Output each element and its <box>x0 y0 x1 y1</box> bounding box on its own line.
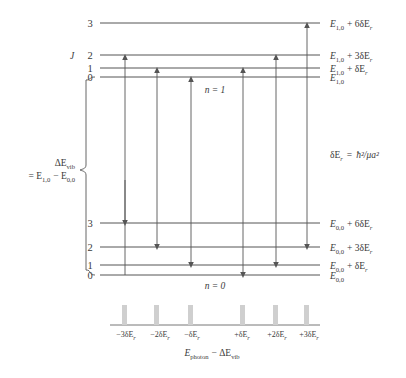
spectrum-tick-label-4: +δEr <box>234 330 250 341</box>
spectrum-bar-6 <box>304 305 309 325</box>
lower-energy-label-j0: E0,0 <box>329 271 345 283</box>
lower-energy-label-j3: E0,0+ 6δEr <box>329 219 373 231</box>
lower-energy-label-j2: E0,0+ 3δEr <box>329 243 373 255</box>
spectrum-tick-1-sub: r <box>133 334 136 341</box>
spectrum-bar-4 <box>240 305 245 325</box>
upper-energy-extra-sub-j1: r <box>365 69 368 76</box>
lower-energy-extra-sub-j2: r <box>370 248 373 255</box>
spectrum-tick-2-sub: r <box>167 334 170 341</box>
lower-energy-extra-sub-j1: r <box>365 266 368 273</box>
upper-energy-extra-j3: + 6δE <box>347 19 370 29</box>
spectrum-bar-1 <box>122 305 127 325</box>
spectrum-group: −3δEr −2δEr −δEr +δEr +2δEr +3δEr Ephoto… <box>110 305 320 360</box>
upper-energy-extra-sub-j3: r <box>370 24 373 31</box>
vib-delta-symbol: ΔE <box>55 158 67 168</box>
transition-arrow-t4 <box>240 67 246 278</box>
vibrational-energy-label-line2: = E1,0− E0,0 <box>28 171 75 183</box>
energy-level-diagram-figure: 3 2 1 0 J n = 1 E1,0+ 6δEr E1,0+ 3δEr E1… <box>0 0 406 378</box>
diagram-canvas: 3 2 1 0 J n = 1 E1,0+ 6δEr E1,0+ 3δEr E1… <box>0 0 406 378</box>
upper-state-label-text: n = 1 <box>205 85 226 95</box>
vibrational-energy-label-line1: ΔEvib <box>55 158 76 170</box>
spectrum-caption-minus: − ΔE <box>212 348 232 358</box>
lower-energy-sub-j0: 0,0 <box>336 276 345 283</box>
rotational-constant-group: δEr=ħ²/μa² <box>330 150 379 162</box>
upper-level-number-j3: 3 <box>87 18 92 29</box>
upper-energy-sub-j1: 1,0 <box>336 69 345 76</box>
vibrational-energy-brace-group: ΔEvib = E1,0− E0,0 <box>28 77 95 275</box>
spectrum-tick-label-3: −δEr <box>184 330 200 341</box>
vib-eq-prefix: = E <box>28 171 42 181</box>
spectrum-tick-2-prefix: −2δE <box>150 330 167 339</box>
lower-energy-sub-j2: 0,0 <box>336 248 345 255</box>
lower-energy-extra-j3: + 6δE <box>347 219 370 229</box>
upper-manifold-group: 3 2 1 0 J n = 1 E1,0+ 6δEr E1,0+ 3δEr E1… <box>70 18 373 95</box>
upper-energy-sub-j3: 1,0 <box>336 24 345 31</box>
upper-energy-extra-sub-j2: r <box>370 56 373 63</box>
lower-level-number-j2: 2 <box>87 242 92 253</box>
spectrum-tick-4-sub: r <box>247 334 250 341</box>
lower-energy-sub-j1: 0,0 <box>336 266 345 273</box>
transition-arrows-group <box>122 22 310 278</box>
lower-state-label-text: n = 0 <box>205 281 226 291</box>
spectrum-tick-3-sub: r <box>197 334 200 341</box>
rot-const-lhs-sub: r <box>340 155 343 162</box>
upper-energy-label-j2: E1,0+ 3δEr <box>329 51 373 63</box>
lower-energy-sub-j3: 0,0 <box>336 224 345 231</box>
spectrum-bar-2 <box>154 305 159 325</box>
transition-arrow-t6 <box>304 22 310 250</box>
rot-const-equals: = <box>347 150 352 160</box>
spectrum-tick-4-prefix: +δE <box>234 330 247 339</box>
vib-eq-minus: − E <box>53 171 67 181</box>
lower-manifold-group: 3 2 1 0 n = 0 E0,0+ 6δEr E0,0+ 3δEr E0,0… <box>87 218 372 291</box>
spectrum-bar-5 <box>273 305 278 325</box>
spectrum-tick-1-prefix: −3δE <box>116 330 133 339</box>
spectrum-caption-sub2: vib <box>231 353 240 360</box>
spectrum-tick-5-sub: r <box>284 334 287 341</box>
vib-delta-sub: vib <box>67 163 76 170</box>
lower-state-label: n = 0 <box>205 281 226 291</box>
vib-eq-sub1: 1,0 <box>42 176 51 183</box>
spectrum-bar-3 <box>188 305 193 325</box>
upper-level-number-j2: 2 <box>87 50 92 61</box>
spectrum-tick-label-1: −3δEr <box>116 330 136 341</box>
lower-energy-extra-j2: + 3δE <box>347 243 370 253</box>
rot-const-rhs: ħ²/μa² <box>356 150 379 160</box>
transition-arrow-t1-down <box>122 180 128 226</box>
upper-energy-sub-j2: 1,0 <box>336 56 345 63</box>
spectrum-tick-label-2: −2δEr <box>150 330 170 341</box>
spectrum-tick-6-sub: r <box>316 334 319 341</box>
upper-energy-sub-j0: 1,0 <box>336 78 345 85</box>
spectrum-axis-caption: Ephoton− ΔEvib <box>183 348 240 360</box>
spectrum-caption-sub: photon <box>190 353 209 360</box>
spectrum-tick-label-5: +2δEr <box>267 330 287 341</box>
rotational-quantum-number-label: J <box>70 51 75 61</box>
rotational-constant-formula: δEr=ħ²/μa² <box>330 150 379 162</box>
lower-energy-extra-sub-j3: r <box>370 224 373 231</box>
upper-energy-extra-j1: + δE <box>347 64 365 74</box>
spectrum-tick-6-prefix: +3δE <box>299 330 316 339</box>
spectrum-tick-5-prefix: +2δE <box>267 330 284 339</box>
spectrum-tick-3-prefix: −δE <box>184 330 197 339</box>
upper-energy-extra-j2: + 3δE <box>347 51 370 61</box>
lower-energy-extra-j1: + δE <box>347 261 365 271</box>
transition-arrow-t3 <box>188 76 194 268</box>
lower-level-number-j3: 3 <box>87 218 92 229</box>
transition-arrow-t1 <box>122 54 128 275</box>
rot-const-lhs: δE <box>330 150 340 160</box>
transition-arrow-t5 <box>273 54 279 268</box>
upper-state-label: n = 1 <box>205 85 226 95</box>
upper-energy-label-j3: E1,0+ 6δEr <box>329 19 373 31</box>
spectrum-tick-label-6: +3δEr <box>299 330 319 341</box>
vib-eq-sub2: 0,0 <box>67 176 76 183</box>
